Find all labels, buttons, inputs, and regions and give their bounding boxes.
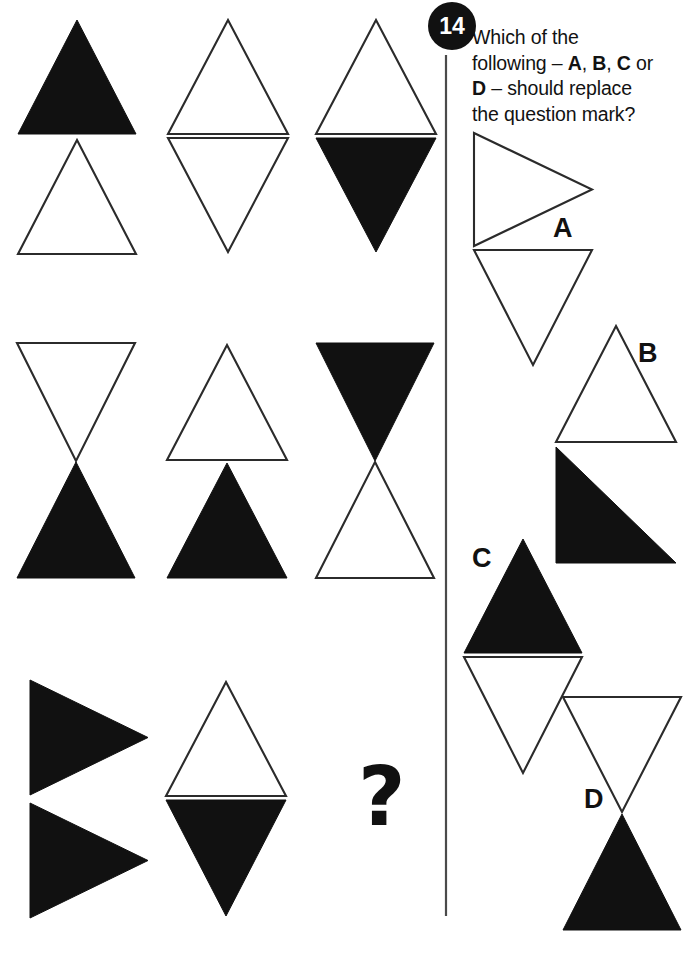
matrix-cell <box>316 343 434 578</box>
answer-option-a[interactable]: A <box>474 133 592 365</box>
question-number: 14 <box>439 13 465 39</box>
matrix-cell <box>166 682 286 916</box>
triangle-up-white <box>556 326 676 442</box>
triangle-up-white <box>316 462 434 578</box>
matrix-cell <box>168 20 288 252</box>
option-label-b: B <box>638 338 658 368</box>
triangle-down-black <box>316 343 434 461</box>
matrix-cell <box>316 20 436 252</box>
option-label-a: A <box>553 213 573 243</box>
prompt-option-c: C <box>617 52 631 74</box>
prompt-option-d: D <box>472 77 486 99</box>
prompt-option-b: B <box>592 52 606 74</box>
triangle-right-white <box>474 133 592 246</box>
triangle-up-black <box>167 463 287 578</box>
triangle-right-black <box>30 680 148 795</box>
prompt-comma-2: , <box>606 52 617 74</box>
prompt-line-3-rest: – should replace <box>486 77 632 99</box>
triangle-down-white <box>17 343 135 461</box>
question-number-badge: 14 <box>428 2 476 50</box>
triangle-down-black <box>316 138 436 252</box>
triangle-up-black <box>563 814 681 930</box>
prompt-line-2-lead: following <box>472 52 552 74</box>
question-mark-cell: ? <box>358 749 406 844</box>
triangle-up-white <box>166 682 286 796</box>
question-prompt: Which of the following – A, B, C or D – … <box>472 25 686 127</box>
answer-option-c[interactable]: C <box>464 539 582 773</box>
answer-option-d[interactable]: D <box>563 697 681 930</box>
puzzle-canvas: ABCD 14 ? <box>0 0 694 956</box>
prompt-comma-1: , <box>582 52 593 74</box>
triangle-up-white <box>168 20 288 134</box>
triangle-down-black <box>166 800 286 916</box>
triangle-up-black <box>17 462 135 578</box>
triangle-up-white <box>316 20 436 134</box>
prompt-line-4: the question mark? <box>472 103 635 125</box>
triangle-down-white <box>168 138 288 252</box>
answer-option-b[interactable]: B <box>556 326 676 563</box>
prompt-line-1: Which of the <box>472 26 579 48</box>
matrix-cell <box>167 345 287 578</box>
matrix-cell <box>17 343 135 578</box>
question-mark: ? <box>358 749 406 844</box>
triangle-right-black <box>30 803 148 918</box>
triangle-right-angle-black <box>556 447 676 563</box>
prompt-or: or <box>631 52 653 74</box>
prompt-option-a: A <box>568 52 582 74</box>
triangle-down-white <box>563 697 681 812</box>
triangle-up-white <box>18 140 136 254</box>
triangle-up-white <box>167 345 287 460</box>
puzzle-page: ABCD 14 ? Which of the following – A, B,… <box>0 0 694 956</box>
triangle-up-black <box>18 20 136 134</box>
matrix-cell <box>30 680 148 918</box>
triangle-down-white <box>464 657 582 773</box>
triangle-down-white <box>474 250 592 365</box>
matrix-cell <box>18 20 136 254</box>
answer-options: ABCD <box>464 133 681 930</box>
option-label-d: D <box>584 784 604 814</box>
prompt-dash-1: – <box>552 52 568 74</box>
option-label-c: C <box>472 543 492 573</box>
